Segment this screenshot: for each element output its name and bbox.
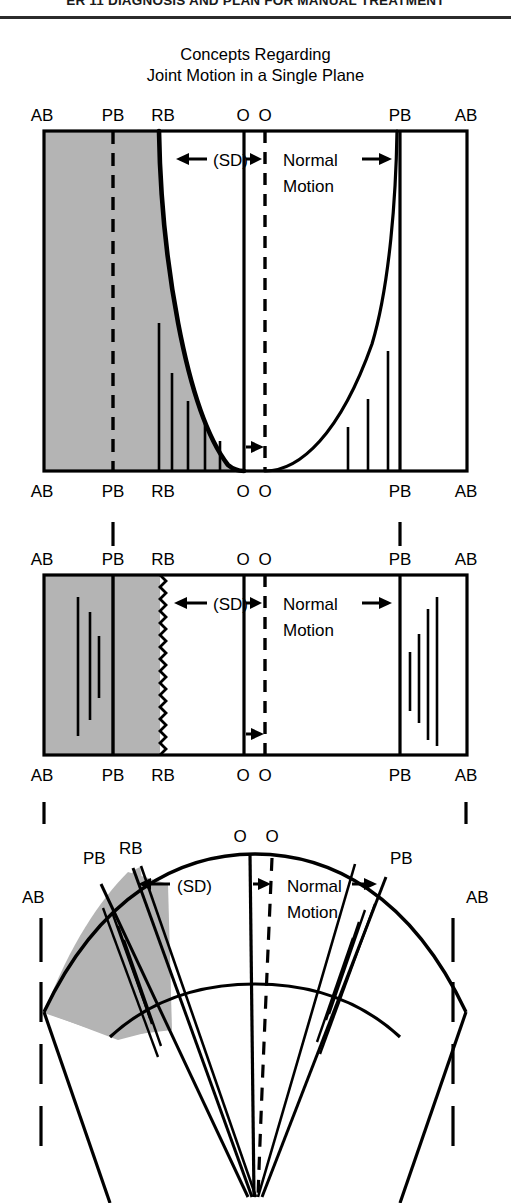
panel3-label-ab-right: AB — [466, 888, 489, 907]
panel3-ab-left-radial — [44, 1012, 110, 1203]
panel2-normal-arrow-head — [379, 597, 392, 609]
panel3-o-dashed-radial — [258, 858, 272, 1197]
panel3-normal-motion-line-2: Motion — [287, 903, 338, 922]
panel1-bottom-label-ab-right: AB — [455, 482, 478, 501]
panel2-top-label-o-dashed: O — [258, 550, 271, 569]
panel2-normal-motion-annotation: Normal Motion — [283, 595, 392, 640]
panel2-o-arrow-bottom-head — [251, 728, 264, 740]
panel1-o-arrow-bottom-head — [251, 441, 264, 453]
panel3-label-ab-left: AB — [22, 888, 45, 907]
panel2-sd-arrow-head — [174, 597, 187, 609]
panel2-bottom-label-o-dashed: O — [258, 766, 271, 785]
panel2-o-arrow-top-head — [250, 597, 262, 609]
panel1-sd-annotation: (SD) — [176, 151, 248, 170]
panel2-top-label-ab-left: AB — [31, 550, 54, 569]
panel2-sd-annotation: (SD) — [174, 595, 248, 614]
panel2-normal-motion-line-1: Normal — [283, 595, 338, 614]
panel1-o-arrow-top-head — [250, 153, 262, 165]
panel3-right-stroke-4 — [317, 938, 353, 1042]
running-head-text: ER 11 DIAGNOSIS AND PLAN FOR MANUAL TREA… — [0, 0, 511, 8]
panel1-bottom-label-ab-left: AB — [31, 482, 54, 501]
panel2-top-label-rb: RB — [151, 550, 175, 569]
panel2-o-arrow-top — [246, 597, 262, 609]
panel1-top-label-pb-right: PB — [389, 106, 412, 125]
panel2-top-label-o-solid: O — [236, 550, 249, 569]
panel1-bottom-label-pb-right: PB — [389, 482, 412, 501]
panel2-bottom-labels: AB PB RB O O PB AB — [31, 766, 478, 785]
panel3-o-solid-radial — [250, 854, 254, 1197]
panel1-bottom-labels: AB PB RB O O PB AB — [31, 482, 478, 501]
panel3-label-pb-right: PB — [390, 849, 413, 868]
panel3-ab-right-radial — [400, 1012, 466, 1203]
panel2-bottom-label-o-solid: O — [236, 766, 249, 785]
panel1-top-label-o-dashed: O — [258, 106, 271, 125]
panel1-bottom-label-o-dashed: O — [258, 482, 271, 501]
panel2-bottom-label-pb-right: PB — [389, 766, 412, 785]
panel2-top-label-ab-right: AB — [455, 550, 478, 569]
panel2-o-arrow-bottom — [246, 728, 264, 740]
panel2-sd-label: (SD) — [213, 595, 248, 614]
panel1-bottom-label-pb-left: PB — [102, 482, 125, 501]
panel2-bottom-label-pb-left: PB — [102, 766, 125, 785]
figure-title: Concepts Regarding Joint Motion in a Sin… — [0, 44, 511, 86]
panel1-top-label-pb-left: PB — [102, 106, 125, 125]
panel1-top-label-rb: RB — [151, 106, 175, 125]
panel1-normal-motion-line-1: Normal — [283, 151, 338, 170]
panel3-label-rb: RB — [119, 839, 143, 858]
panel1-sd-label: (SD) — [213, 151, 248, 170]
panel3-o-arrow-head — [258, 878, 271, 890]
panel3-right-stroke-1 — [320, 904, 375, 1054]
panel3-label-o-solid: O — [233, 827, 246, 846]
panel-fan-sector: AB PB RB O O PB AB (SD) Normal Motion — [0, 822, 511, 1203]
panel2-right-bars — [410, 597, 437, 746]
panel2-normal-motion-line-2: Motion — [283, 621, 334, 640]
panel-restrictive-barrier: AB PB RB O O PB AB (SD) — [0, 548, 511, 798]
panel1-normal-arrow-head — [379, 153, 392, 165]
figure-title-line-2: Joint Motion in a Single Plane — [0, 65, 511, 86]
panel2-top-label-pb-right: PB — [389, 550, 412, 569]
panel1-right-bars — [348, 351, 388, 471]
panel3-sd-label: (SD) — [177, 877, 212, 896]
panel3-label-pb-left: PB — [83, 849, 106, 868]
panel3-normal-motion-line-1: Normal — [287, 877, 342, 896]
panel1-panel2-connector-ticks — [0, 520, 511, 548]
panel2-shaded-region — [44, 575, 160, 755]
panel1-top-label-o-solid: O — [236, 106, 249, 125]
running-head-rule — [0, 16, 511, 19]
panel1-normal-motion-line-2: Motion — [283, 177, 334, 196]
panel1-bottom-label-rb: RB — [151, 482, 175, 501]
running-head: ER 11 DIAGNOSIS AND PLAN FOR MANUAL TREA… — [0, 0, 511, 22]
panel1-shaded-fill — [44, 131, 244, 471]
panel1-top-label-ab-right: AB — [455, 106, 478, 125]
panel2-bottom-label-ab-right: AB — [455, 766, 478, 785]
panel2-bottom-label-rb: RB — [151, 766, 175, 785]
panel1-normal-motion-annotation: Normal Motion — [283, 151, 392, 196]
panel1-top-labels: AB PB RB O O PB AB — [31, 106, 478, 125]
panel-elastic-barrier: AB PB RB O O PB AB (SD) — [0, 104, 511, 504]
panel2-top-labels: AB PB RB O O PB AB — [31, 550, 478, 569]
panel3-o-arrow — [253, 878, 271, 890]
panel3-pb-left-radial — [101, 884, 248, 1197]
panel2-restrictive-barrier-zigzag — [160, 575, 166, 755]
panel1-bottom-label-o-solid: O — [236, 482, 249, 501]
panel1-o-arrow-bottom — [246, 441, 264, 453]
panel2-bottom-label-ab-left: AB — [31, 766, 54, 785]
panel1-sd-arrow-head — [176, 153, 189, 165]
panel3-normal-arrow-head — [364, 878, 377, 890]
panel1-o-arrow-top — [246, 153, 262, 165]
panel1-top-label-ab-left: AB — [31, 106, 54, 125]
figure-title-line-1: Concepts Regarding — [0, 44, 511, 65]
panel2-top-label-pb-left: PB — [102, 550, 125, 569]
panel3-label-o-dashed: O — [265, 827, 278, 846]
